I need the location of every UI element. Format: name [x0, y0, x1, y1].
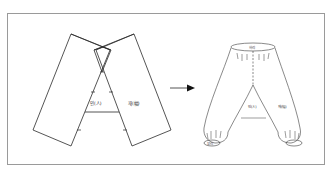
- garment-cuff-label: 부리: [207, 141, 213, 146]
- left-leg-outer: [204, 48, 231, 128]
- garment-waistband-label: 허리: [249, 45, 255, 50]
- arrow-icon: [170, 85, 195, 92]
- pattern-gusset-label: 인(人): [90, 100, 102, 106]
- notch-marks: [77, 72, 127, 130]
- right-panel-outline: [96, 34, 171, 146]
- finished-garment: [204, 43, 302, 146]
- baji-pattern-diagram: [0, 0, 333, 173]
- garment-panel-label: 재(幅): [278, 104, 287, 109]
- pattern-panel-label: 재(幅): [128, 100, 140, 106]
- garment-gusset-label: 인(人): [248, 104, 257, 109]
- flat-pattern: [33, 34, 171, 146]
- left-panel-outline: [33, 34, 110, 146]
- right-leg-outer: [275, 48, 300, 128]
